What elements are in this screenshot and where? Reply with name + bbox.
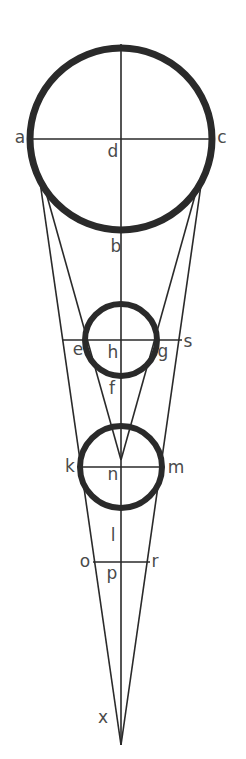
construction-lines (32, 44, 210, 745)
point-label-r: r (152, 553, 159, 570)
point-label-f: f (109, 380, 115, 397)
point-label-d: d (108, 143, 119, 160)
point-label-e: e (73, 341, 83, 358)
geometric-diagram (0, 0, 246, 759)
point-label-s: s (184, 333, 193, 350)
point-label-h: h (108, 344, 119, 361)
point-label-n: n (108, 466, 119, 483)
point-label-k: k (65, 458, 75, 475)
point-label-m: m (168, 459, 185, 476)
point-label-b: b (111, 238, 122, 255)
point-label-o: o (80, 553, 90, 570)
point-label-x: x (98, 709, 108, 726)
point-label-a: a (15, 129, 25, 146)
point-label-g: g (158, 343, 169, 360)
point-label-l: l (111, 527, 116, 544)
point-label-p: p (107, 565, 118, 582)
point-label-c: c (217, 129, 226, 146)
